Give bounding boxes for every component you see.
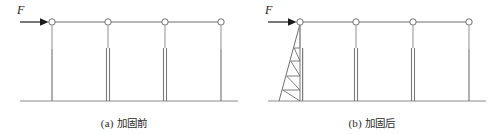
panel-b-group: F (264, 3, 486, 101)
caption-panel-b: (b)加固后 (248, 115, 496, 130)
pin-joint-a-4 (218, 19, 224, 25)
caption-text-a: 加固前 (117, 117, 148, 129)
truss-diagonal-2 (291, 61, 300, 76)
caption-text-b: 加固后 (365, 117, 396, 129)
force-label-b: F (264, 3, 273, 17)
pin-joint-b-3 (410, 19, 416, 25)
pin-joint-b-2 (353, 19, 359, 25)
caption-row: (a)加固前 (b)加固后 (0, 110, 496, 134)
pin-joint-a-3 (162, 19, 168, 25)
pin-joint-a-2 (105, 19, 111, 25)
truss-diagonal-1 (294, 48, 300, 61)
force-arrow-head-a (40, 18, 49, 26)
force-label-a: F (16, 3, 25, 17)
truss-diagonal-3 (287, 76, 300, 90)
force-arrow-head-b (288, 18, 297, 26)
caption-tag-b: (b) (348, 117, 361, 129)
panel-a-group: F (16, 3, 238, 101)
figure-container: F (0, 0, 496, 134)
truss-inclined-chord (279, 24, 300, 101)
caption-panel-a: (a)加固前 (0, 115, 248, 130)
pin-joint-a-1 (49, 19, 55, 25)
pin-joint-b-1 (297, 19, 303, 25)
pin-joint-b-4 (466, 19, 472, 25)
structural-frame-diagram: F (0, 0, 496, 112)
caption-tag-a: (a) (101, 117, 114, 129)
reinforcement-truss (279, 24, 300, 101)
truss-diagonal-4 (283, 90, 300, 101)
